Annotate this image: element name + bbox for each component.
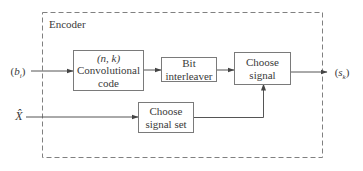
conv-code-params: (n, k) [97, 52, 120, 65]
input-bits-close: ) [22, 65, 26, 77]
choose-signal-set-line1: Choose [150, 105, 183, 118]
choose-signal-line2: signal [249, 69, 275, 82]
arrow-signal-set-to-choose-signal [193, 84, 264, 118]
output-close: ) [346, 66, 350, 78]
choose-signal-set-line2: signal set [145, 118, 186, 131]
choose-signal-line1: Choose [246, 56, 279, 69]
output-label: (sk) [329, 66, 355, 83]
block-bit-interleaver: Bit interleaver [161, 57, 217, 82]
interleaver-line2: interleaver [165, 70, 212, 83]
input-bits-label: (bi) [5, 65, 31, 82]
encoder-label: Encoder [49, 18, 86, 30]
input-xhat-label: X̂ [13, 110, 25, 122]
conv-code-subtitle: code [98, 77, 119, 90]
block-convolutional-code: (n, k) Convolutional code [73, 50, 144, 91]
block-choose-signal-set: Choose signal set [138, 102, 194, 133]
block-choose-signal: Choose signal [234, 52, 291, 85]
conv-code-title: Convolutional [77, 64, 140, 77]
interleaver-line1: Bit [182, 57, 195, 70]
